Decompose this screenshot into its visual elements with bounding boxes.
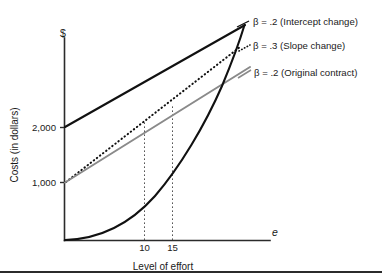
series-line-slope-change (66, 47, 240, 182)
x-axis-symbol: e (272, 226, 278, 238)
guide-lines-group (145, 106, 173, 240)
x-tick-label-15: 15 (167, 242, 178, 253)
series-group (65, 25, 250, 240)
costs-effort-chart: $ e 2,000 1,000 10 15 β = .2 (Intercept … (0, 0, 382, 280)
y-tick-label-2000: 2,000 (32, 122, 56, 133)
legend-label-intercept-change: β = .2 (Intercept change) (253, 16, 358, 27)
y-tick-label-1000: 1,000 (32, 177, 56, 188)
series-curve-agent-cost (65, 25, 245, 240)
footer-divider (0, 271, 382, 273)
y-axis-title: Costs (in dollars) (9, 107, 20, 182)
legend: β = .2 (Intercept change) β = .3 (Slope … (237, 16, 358, 78)
y-axis-symbol: $ (60, 27, 66, 39)
legend-leader-slope-change (239, 45, 250, 51)
legend-label-slope-change: β = .3 (Slope change) (253, 40, 345, 51)
x-tick-label-10: 10 (139, 242, 150, 253)
legend-label-original-contract: β = .2 (Original contract) (254, 67, 357, 78)
axes-group (60, 38, 270, 241)
